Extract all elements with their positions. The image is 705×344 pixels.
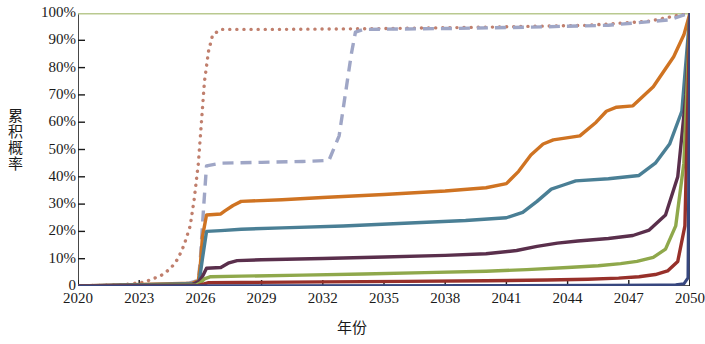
series-line-series-9-navy xyxy=(78,13,690,286)
plot-area xyxy=(78,13,690,286)
y-axis-tick-label: 70% xyxy=(24,86,76,103)
x-axis-tick-label: 2050 xyxy=(675,290,705,307)
series-line-series-3-lavender-dashed xyxy=(78,13,690,286)
x-axis-tick-label: 2041 xyxy=(491,290,521,307)
x-axis-tick-label: 2032 xyxy=(308,290,338,307)
x-axis-tick-label: 2044 xyxy=(553,290,583,307)
x-axis-tick-label: 2020 xyxy=(63,290,93,307)
x-axis-title-text: 年份 xyxy=(337,320,367,336)
x-axis-tick-label: 2047 xyxy=(614,290,644,307)
x-axis-tick-label: 2029 xyxy=(247,290,277,307)
series-line-series-4-orange xyxy=(78,13,690,286)
chart-svg xyxy=(78,13,690,286)
y-axis-tick-label: 100% xyxy=(24,4,76,21)
y-axis-tick-label: 90% xyxy=(24,31,76,48)
y-axis-tick-label: 20% xyxy=(24,222,76,239)
y-axis-tick-label: 60% xyxy=(24,113,76,130)
x-axis-title: 年份 xyxy=(0,316,704,337)
y-axis-tick-label: 80% xyxy=(24,59,76,76)
series-line-series-2-dusty-rose-dotted xyxy=(78,13,690,286)
series-line-series-5-teal xyxy=(78,13,690,286)
y-axis-tick-label: 50% xyxy=(24,141,76,158)
x-axis-tick-label: 2023 xyxy=(124,290,154,307)
series-line-series-6-dark-purple xyxy=(78,13,690,286)
y-axis-tick-label: 30% xyxy=(24,195,76,212)
x-axis-tick-label: 2035 xyxy=(369,290,399,307)
x-axis-tick-label: 2026 xyxy=(185,290,215,307)
series-line-series-8-dark-red xyxy=(78,13,690,286)
y-axis-tick-label: 40% xyxy=(24,168,76,185)
x-axis-tick-label: 2038 xyxy=(430,290,460,307)
series-line-series-7-olive-green xyxy=(78,13,690,286)
y-axis-tick-label: 10% xyxy=(24,250,76,267)
